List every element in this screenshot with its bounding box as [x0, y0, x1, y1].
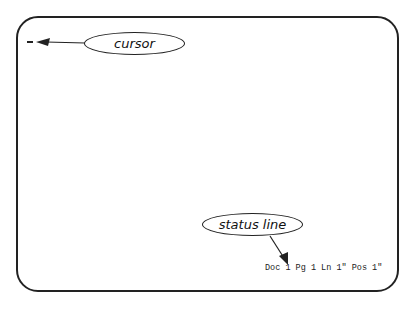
- cursor-arrow-line: [46, 42, 85, 43]
- status-arrow-line: [270, 236, 284, 258]
- cursor-callout: cursor: [84, 32, 185, 55]
- cursor-callout-label: cursor: [114, 36, 155, 51]
- status-line-callout: status line: [202, 213, 303, 236]
- status-line-callout-label: status line: [219, 217, 287, 232]
- cursor-arrowhead-icon: [36, 38, 50, 46]
- status-line: Doc 1 Pg 1 Ln 1" Pos 1": [265, 263, 382, 273]
